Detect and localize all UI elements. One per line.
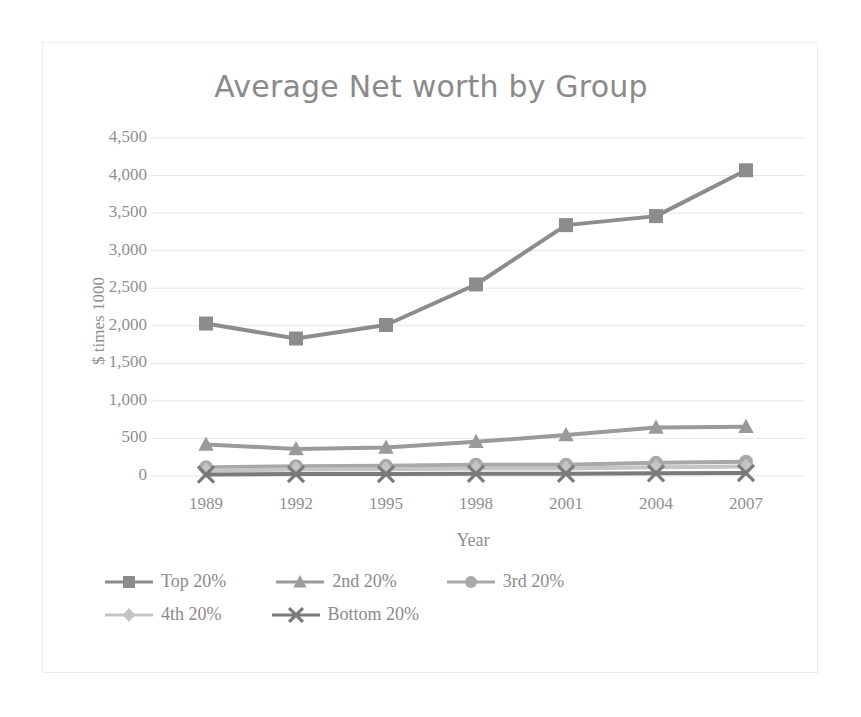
legend-item-3rd-20[interactable]: 3rd 20% — [445, 571, 565, 592]
data-point-square — [379, 318, 393, 332]
legend-marker-square-icon — [103, 574, 155, 590]
legend-item-bottom-20[interactable]: Bottom 20% — [270, 604, 420, 625]
y-axis-title: $ times 1000 — [89, 251, 109, 391]
y-tick-label: 1,000 — [57, 390, 147, 410]
data-point-circle — [465, 576, 477, 588]
legend-marker-diamond-icon — [103, 607, 155, 623]
legend-item-top-20[interactable]: Top 20% — [103, 571, 226, 592]
series-layer — [198, 163, 754, 482]
x-tick-label: 2007 — [701, 494, 791, 514]
data-point-square — [649, 209, 663, 223]
series-line — [206, 170, 746, 338]
data-point-diamond — [123, 608, 136, 622]
legend-row: Top 20%2nd 20%3rd 20% — [103, 571, 803, 592]
legend-item-4th-20[interactable]: 4th 20% — [103, 604, 222, 625]
data-point-square — [559, 218, 573, 232]
legend-label: 2nd 20% — [332, 571, 397, 592]
data-point-square — [123, 576, 135, 588]
legend-label: 3rd 20% — [503, 571, 565, 592]
chart-page: Average Net worth by Group 05001,0001,50… — [0, 0, 861, 717]
data-point-square — [289, 332, 303, 346]
series-top-20 — [199, 163, 753, 345]
y-tick-label: 4,000 — [57, 165, 147, 185]
y-tick-label: 500 — [57, 427, 147, 447]
data-point-square — [739, 163, 753, 177]
data-point-square — [469, 277, 483, 291]
series-2nd-20 — [198, 419, 753, 456]
x-tick-label: 2004 — [611, 494, 701, 514]
chart-legend: Top 20%2nd 20%3rd 20%4th 20%Bottom 20% — [103, 571, 803, 637]
data-point-square — [199, 317, 213, 331]
legend-label: Bottom 20% — [328, 604, 420, 625]
legend-marker-triangle-icon — [274, 574, 326, 590]
legend-marker-x-icon — [270, 607, 322, 623]
x-tick-label: 1992 — [251, 494, 341, 514]
legend-marker-circle-icon — [445, 574, 497, 590]
x-tick-label: 1995 — [341, 494, 431, 514]
y-tick-label: 3,500 — [57, 202, 147, 222]
y-tick-label: 0 — [57, 465, 147, 485]
y-tick-label: 4,500 — [57, 127, 147, 147]
legend-label: Top 20% — [161, 571, 226, 592]
legend-label: 4th 20% — [161, 604, 222, 625]
legend-row: 4th 20%Bottom 20% — [103, 604, 803, 625]
x-tick-label: 2001 — [521, 494, 611, 514]
x-tick-label: 1998 — [431, 494, 521, 514]
x-axis-title: Year — [153, 530, 793, 551]
legend-item-2nd-20[interactable]: 2nd 20% — [274, 571, 397, 592]
x-tick-label: 1989 — [161, 494, 251, 514]
chart-frame: Average Net worth by Group 05001,0001,50… — [42, 42, 818, 673]
